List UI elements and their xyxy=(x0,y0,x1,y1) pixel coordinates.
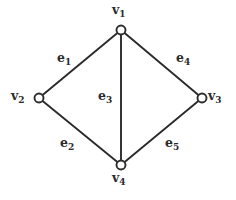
vertex-label-v1-subscript: 1 xyxy=(119,9,125,19)
graph-vertex-v4 xyxy=(117,161,126,170)
edge-label-e3: e3 xyxy=(98,90,112,105)
edge-label-e2-subscript: 2 xyxy=(68,142,74,152)
vertex-label-v4-subscript: 4 xyxy=(119,177,125,187)
vertex-label-v4: v4 xyxy=(112,172,126,187)
vertex-label-v3-subscript: 3 xyxy=(215,95,221,105)
graph-vertex-v1 xyxy=(117,26,126,35)
vertex-label-v3: v3 xyxy=(208,90,222,105)
edge-label-e1-subscript: 1 xyxy=(65,57,71,67)
edge-label-e5: e5 xyxy=(165,137,179,152)
edge-label-e4-base: e xyxy=(176,50,184,65)
edge-label-e2-base: e xyxy=(60,135,68,150)
graph-vertex-v2 xyxy=(35,94,44,103)
graph-edge-e2 xyxy=(43,101,117,162)
vertex-label-v2-subscript: 2 xyxy=(18,95,24,105)
edge-label-e2: e2 xyxy=(60,137,74,152)
vertex-label-v1: v1 xyxy=(112,4,126,19)
graph-edge-e5 xyxy=(125,101,198,161)
edge-label-e4-subscript: 4 xyxy=(184,57,190,67)
edge-label-e5-subscript: 5 xyxy=(173,142,179,152)
edge-label-e1-base: e xyxy=(57,50,65,65)
graph-vertex-v3 xyxy=(198,94,207,103)
graph-edge-e1 xyxy=(43,33,117,94)
graph-diagram: e1e2e3e4e5v1v2v3v4 xyxy=(0,0,236,200)
edge-label-e5-base: e xyxy=(165,135,173,150)
edge-label-e1: e1 xyxy=(57,52,71,67)
edge-label-e3-base: e xyxy=(98,88,106,103)
edge-label-e3-subscript: 3 xyxy=(106,95,112,105)
edge-label-e4: e4 xyxy=(176,52,190,67)
vertex-label-v2: v2 xyxy=(11,90,25,105)
